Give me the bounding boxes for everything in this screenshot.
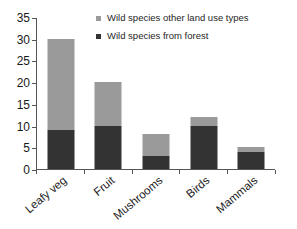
bar-slot	[180, 18, 228, 169]
bar-segment-from-forest[interactable]	[95, 126, 122, 169]
bar-slot	[37, 18, 85, 169]
bar-segment-other-land-use[interactable]	[190, 117, 217, 126]
bar-slot	[85, 18, 133, 169]
x-axis-category-label: Leafy veg	[23, 174, 69, 215]
x-axis-category-label: Mushrooms	[110, 174, 164, 222]
y-axis-tick	[32, 148, 36, 149]
bar-segment-from-forest[interactable]	[238, 152, 265, 169]
y-axis-tick	[32, 40, 36, 41]
bar-segment-from-forest[interactable]	[142, 156, 169, 169]
y-axis-tick	[32, 61, 36, 62]
bar-slot	[132, 18, 180, 169]
y-axis-tick-label: 0	[23, 164, 30, 176]
bar-slot	[227, 18, 275, 169]
y-axis-tick-label: 20	[17, 77, 30, 89]
bar-stack[interactable]	[238, 147, 265, 169]
x-axis-line	[36, 169, 275, 170]
bar-segment-other-land-use[interactable]	[142, 134, 169, 156]
y-axis-tick-label: 15	[17, 99, 30, 111]
bar-stack[interactable]	[142, 134, 169, 169]
bar-segment-other-land-use[interactable]	[95, 82, 122, 125]
x-axis-category-label: Birds	[184, 174, 212, 200]
y-axis-tick	[32, 127, 36, 128]
bar-segment-from-forest[interactable]	[190, 126, 217, 169]
bar-stack[interactable]	[190, 117, 217, 169]
y-axis-tick-label: 30	[17, 34, 30, 46]
y-axis-tick	[32, 105, 36, 106]
bar-segment-from-forest[interactable]	[47, 130, 74, 169]
bar-stack[interactable]	[95, 82, 122, 169]
y-axis-tick-label: 10	[17, 121, 30, 133]
y-axis-tick	[32, 83, 36, 84]
x-axis-labels: Leafy vegFruitMushroomsBirdsMammals	[37, 172, 276, 229]
x-axis-category-label: Mammals	[214, 174, 260, 215]
bar-stack[interactable]	[47, 39, 74, 169]
y-axis-tick	[32, 18, 36, 19]
y-axis-tick-label: 5	[23, 142, 30, 154]
stacked-bar-chart: Wild species other land use types Wild s…	[0, 0, 297, 229]
bar-series-group	[37, 18, 275, 169]
y-axis-tick-label: 35	[17, 12, 30, 24]
y-axis-tick-label: 25	[17, 55, 30, 67]
x-axis-category-label: Fruit	[91, 174, 116, 198]
plot-area: 05101520253035	[36, 18, 275, 170]
bar-segment-other-land-use[interactable]	[47, 39, 74, 130]
